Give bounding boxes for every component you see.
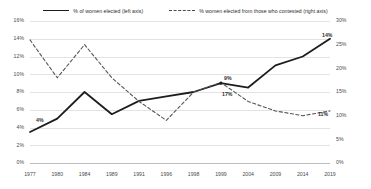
chart-container: % of women elected (left axis) % women e… [0, 0, 371, 189]
data-point-marker [219, 82, 222, 85]
series-line-dashed [30, 40, 330, 120]
data-point-label: 14% [322, 33, 332, 38]
data-point-label: 9% [224, 76, 232, 81]
data-point-label: 17% [222, 92, 232, 97]
data-point-label: 11% [318, 112, 328, 117]
data-point-label: 4% [36, 118, 44, 123]
series-line-solid [30, 39, 330, 132]
series-lines [0, 0, 371, 189]
